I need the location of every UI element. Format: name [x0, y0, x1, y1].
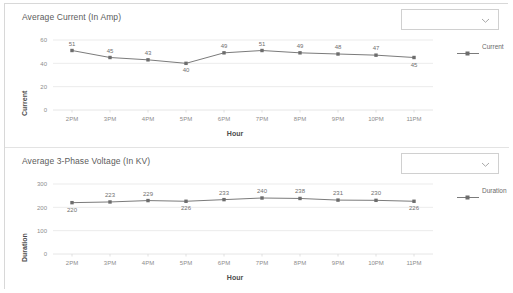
- data-point-label: 231: [333, 190, 344, 196]
- x-tick-label: 7PM: [256, 260, 268, 266]
- x-tick-label: 6PM: [218, 116, 230, 122]
- legend-marker-icon: [457, 43, 479, 50]
- data-point-marker[interactable]: [222, 198, 225, 201]
- legend-label-duration: Duration: [482, 187, 507, 194]
- data-point-marker[interactable]: [298, 197, 301, 200]
- x-tick-label: 4PM: [142, 116, 154, 122]
- x-tick-label: 4PM: [142, 260, 154, 266]
- y-tick-label: 0: [44, 251, 48, 257]
- x-axis-title-current: Hour: [65, 130, 405, 137]
- data-point-label: 233: [219, 190, 230, 196]
- dashboard-frame: Average Current (In Amp) 02040602PM3PM4P…: [4, 3, 508, 289]
- data-point-marker[interactable]: [336, 52, 339, 55]
- chart-average-3-phase-voltage: 01002003002PM3PM4PM5PM6PM7PM8PM9PM10PM11…: [5, 174, 509, 290]
- x-tick-label: 6PM: [218, 260, 230, 266]
- chevron-down-icon: [481, 16, 490, 25]
- x-tick-label: 10PM: [368, 116, 384, 122]
- data-point-marker[interactable]: [184, 200, 187, 203]
- y-tick-label: 20: [40, 84, 47, 90]
- y-tick-label: 60: [40, 37, 47, 43]
- data-point-label: 220: [67, 207, 78, 213]
- data-point-marker[interactable]: [374, 53, 377, 56]
- x-axis-title-voltage: Hour: [65, 274, 405, 281]
- y-tick-label: 200: [37, 205, 48, 211]
- x-tick-label: 9PM: [332, 260, 344, 266]
- data-point-label: 45: [107, 48, 114, 54]
- data-point-marker[interactable]: [298, 51, 301, 54]
- data-point-marker[interactable]: [374, 199, 377, 202]
- data-point-label: 238: [295, 188, 306, 194]
- panel-title-average-3-phase-voltage: Average 3-Phase Voltage (In KV): [22, 156, 150, 166]
- data-point-label: 43: [145, 50, 152, 56]
- data-point-marker[interactable]: [108, 56, 111, 59]
- y-axis-title-current: Current: [21, 91, 28, 116]
- data-point-marker[interactable]: [146, 58, 149, 61]
- chevron-down-icon: [481, 160, 490, 169]
- data-point-label: 49: [221, 43, 228, 49]
- data-point-label: 47: [373, 45, 380, 51]
- y-axis-title-voltage: Duration: [21, 233, 28, 262]
- x-tick-label: 2PM: [66, 260, 78, 266]
- data-point-label: 223: [105, 192, 116, 198]
- x-tick-label: 11PM: [406, 116, 421, 122]
- x-tick-label: 3PM: [104, 116, 116, 122]
- data-point-label: 226: [409, 205, 420, 211]
- x-tick-label: 3PM: [104, 260, 116, 266]
- data-point-label: 229: [143, 191, 154, 197]
- data-point-marker[interactable]: [108, 200, 111, 203]
- panel-title-average-current: Average Current (In Amp): [22, 12, 121, 22]
- data-point-marker[interactable]: [70, 201, 73, 204]
- legend-label-current: Current: [482, 43, 504, 50]
- chart-canvas-current: 02040602PM3PM4PM5PM6PM7PM8PM9PM10PM11PM5…: [5, 30, 509, 146]
- x-tick-label: 9PM: [332, 116, 344, 122]
- x-tick-label: 11PM: [406, 260, 421, 266]
- data-point-marker[interactable]: [222, 51, 225, 54]
- data-point-label: 45: [411, 62, 418, 68]
- data-point-label: 48: [335, 44, 342, 50]
- x-tick-label: 8PM: [294, 116, 306, 122]
- chart-canvas-voltage: 01002003002PM3PM4PM5PM6PM7PM8PM9PM10PM11…: [5, 174, 509, 290]
- x-tick-label: 7PM: [256, 116, 268, 122]
- x-tick-label: 10PM: [368, 260, 384, 266]
- x-tick-label: 5PM: [180, 116, 192, 122]
- data-point-marker[interactable]: [260, 196, 263, 199]
- data-point-marker[interactable]: [70, 49, 73, 52]
- y-tick-label: 300: [37, 181, 48, 187]
- data-point-marker[interactable]: [260, 49, 263, 52]
- data-point-label: 40: [183, 67, 190, 73]
- data-point-marker[interactable]: [336, 198, 339, 201]
- chart-average-current: 02040602PM3PM4PM5PM6PM7PM8PM9PM10PM11PM5…: [5, 30, 509, 146]
- panel-average-current: Average Current (In Amp) 02040602PM3PM4P…: [5, 4, 509, 148]
- data-point-marker[interactable]: [412, 56, 415, 59]
- y-tick-label: 0: [44, 107, 48, 113]
- x-tick-label: 5PM: [180, 260, 192, 266]
- data-point-label: 51: [69, 41, 76, 47]
- data-point-marker[interactable]: [412, 200, 415, 203]
- y-tick-label: 100: [37, 228, 48, 234]
- data-point-label: 51: [259, 41, 266, 47]
- data-point-label: 226: [181, 205, 192, 211]
- x-tick-label: 2PM: [66, 116, 78, 122]
- period-select-current[interactable]: [401, 9, 499, 30]
- data-point-label: 240: [257, 188, 268, 194]
- data-point-label: 230: [371, 190, 382, 196]
- legend-current[interactable]: Current: [457, 43, 504, 50]
- y-tick-label: 40: [40, 61, 47, 67]
- period-select-voltage[interactable]: [401, 153, 499, 174]
- panel-average-3-phase-voltage: Average 3-Phase Voltage (In KV) 01002003…: [5, 148, 509, 290]
- legend-marker-icon: [457, 187, 479, 194]
- x-tick-label: 8PM: [294, 260, 306, 266]
- data-point-marker[interactable]: [146, 199, 149, 202]
- legend-duration[interactable]: Duration: [457, 187, 507, 194]
- data-point-marker[interactable]: [184, 62, 187, 65]
- data-point-label: 49: [297, 43, 304, 49]
